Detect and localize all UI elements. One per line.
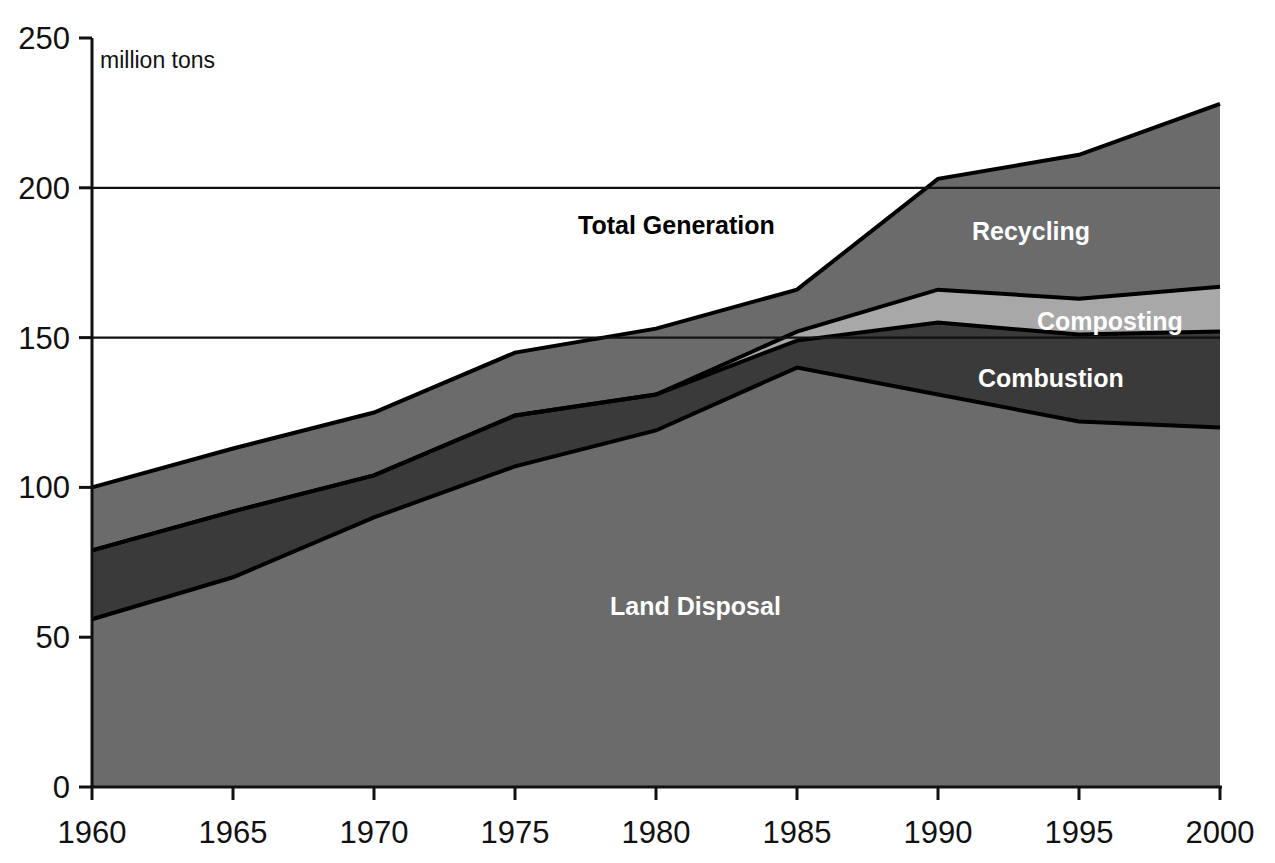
y-tick-label-100: 100 [18,470,70,505]
y-tick-label-200: 200 [18,171,70,206]
label-recycling: Recycling [972,217,1090,245]
y-tick-label-250: 250 [18,21,70,56]
x-tick-label-1990: 1990 [904,815,973,850]
x-tick-label-1960: 1960 [58,815,127,850]
area-series-group [92,104,1220,787]
x-tick-label-1980: 1980 [622,815,691,850]
label-combustion: Combustion [978,364,1124,392]
x-tick-label-2000: 2000 [1186,815,1255,850]
y-axis-ticks: 050100150200250 [18,21,92,805]
y-tick-label-50: 50 [36,620,70,655]
x-axis-ticks: 196019651970197519801985199019952000 [58,787,1255,850]
x-tick-label-1975: 1975 [481,815,550,850]
y-tick-label-150: 150 [18,321,70,356]
y-tick-label-0: 0 [53,770,70,805]
label-land-disposal: Land Disposal [610,592,781,620]
chart-container: 050100150200250 196019651970197519801985… [0,0,1275,863]
stacked-area-chart: 050100150200250 196019651970197519801985… [0,0,1275,863]
label-total-generation: Total Generation [578,211,775,239]
x-tick-label-1985: 1985 [763,815,832,850]
x-tick-label-1965: 1965 [199,815,268,850]
units-note: million tons [100,47,215,73]
x-tick-label-1970: 1970 [340,815,409,850]
x-tick-label-1995: 1995 [1045,815,1114,850]
label-composting: Composting [1037,307,1183,335]
